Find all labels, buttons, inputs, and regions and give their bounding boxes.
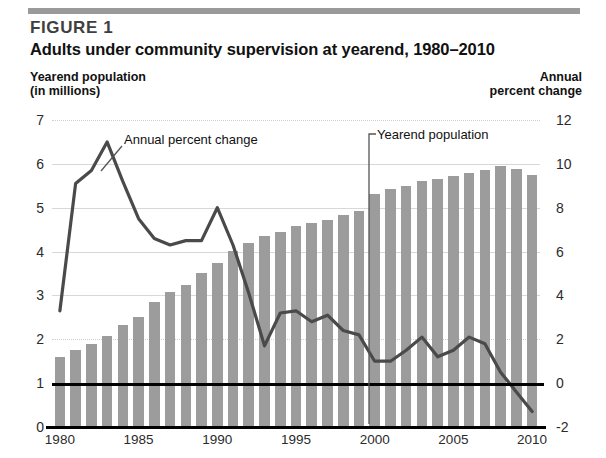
header-rule bbox=[28, 8, 580, 14]
right-axis-caption-line1: Annual bbox=[490, 70, 582, 84]
figure-label: FIGURE 1 bbox=[30, 18, 113, 38]
y-axis-left-tick-label: 1 bbox=[24, 376, 44, 390]
annual-percent-change-line bbox=[60, 142, 532, 412]
line-series-label: Annual percent change bbox=[124, 132, 258, 147]
y-axis-right-tick-label: 2 bbox=[556, 332, 590, 346]
line-series bbox=[52, 120, 540, 427]
y-axis-right-tick-label: 0 bbox=[556, 376, 590, 390]
figure-container: FIGURE 1 Adults under community supervis… bbox=[0, 0, 606, 458]
x-axis-tick-label: 1995 bbox=[273, 432, 319, 447]
y-axis-left-tick-label: 6 bbox=[24, 157, 44, 171]
x-axis-tick-label: 1985 bbox=[116, 432, 162, 447]
y-axis-right-tick-label: 10 bbox=[556, 157, 590, 171]
y-axis-left-tick-label: 3 bbox=[24, 288, 44, 302]
y-axis-right-tick-label: -2 bbox=[556, 420, 590, 434]
axis-baseline bbox=[46, 426, 546, 429]
y-axis-right-tick-label: 6 bbox=[556, 245, 590, 259]
left-axis-caption: Yearend population (in millions) bbox=[30, 70, 146, 98]
page-title: Adults under community supervision at ye… bbox=[30, 40, 495, 59]
y-axis-left-tick-label: 7 bbox=[24, 113, 44, 127]
bar-series-label: Yearend population bbox=[377, 127, 489, 142]
right-axis-caption-line2: percent change bbox=[490, 84, 582, 98]
plot-area bbox=[52, 120, 540, 427]
x-axis-tick-label: 1990 bbox=[194, 432, 240, 447]
left-axis-caption-line2: (in millions) bbox=[30, 84, 146, 98]
y-axis-right-tick-label: 8 bbox=[556, 201, 590, 215]
left-axis-caption-line1: Yearend population bbox=[30, 70, 146, 84]
x-axis-tick-label: 2000 bbox=[352, 432, 398, 447]
y-axis-left-tick-label: 5 bbox=[24, 201, 44, 215]
x-axis-tick-label: 2010 bbox=[509, 432, 555, 447]
y-axis-right-tick-label: 12 bbox=[556, 113, 590, 127]
right-axis-caption: Annual percent change bbox=[490, 70, 582, 98]
y-axis-right-tick-label: 4 bbox=[556, 288, 590, 302]
x-axis-tick-label: 2005 bbox=[430, 432, 476, 447]
y-axis-left-tick-label: 4 bbox=[24, 245, 44, 259]
x-axis-tick-label: 1980 bbox=[37, 432, 83, 447]
zero-percent-line bbox=[52, 383, 544, 386]
y-axis-left-tick-label: 2 bbox=[24, 332, 44, 346]
